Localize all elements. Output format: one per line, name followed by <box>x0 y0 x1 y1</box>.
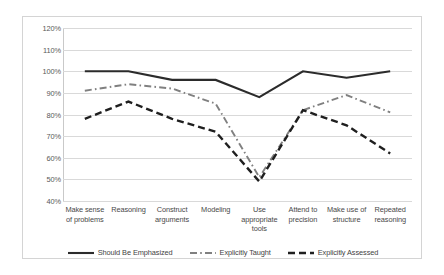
x-tick-label: Useappropriatetools <box>238 205 282 247</box>
gridline <box>63 201 412 202</box>
chart-container: 120%110%100%90%80%70%60%50%40% Make sens… <box>22 16 422 259</box>
x-tick-label: Repeatedreasoning <box>368 205 412 247</box>
legend-label: Explicitly Assessed <box>318 248 379 257</box>
y-tick-label: 70% <box>27 132 61 141</box>
y-tick-label: 90% <box>27 88 61 97</box>
x-tick-label: Constructarguments <box>150 205 194 247</box>
chart-legend: Should Be EmphasizedExplicitly TaughtExp… <box>23 248 423 257</box>
legend-label: Explicitly Taught <box>220 248 271 257</box>
legend-swatch-icon <box>190 249 216 257</box>
series-line-2 <box>85 102 390 182</box>
series-lines <box>63 28 412 201</box>
x-tick-label: Make senseof problems <box>63 205 107 247</box>
legend-swatch-icon <box>288 249 314 257</box>
y-tick-label: 60% <box>27 153 61 162</box>
y-tick-label: 40% <box>27 197 61 206</box>
legend-item-0[interactable]: Should Be Emphasized <box>68 248 173 257</box>
y-tick-label: 120% <box>27 24 61 33</box>
y-tick-label: 110% <box>27 45 61 54</box>
plot-wrapper: 120%110%100%90%80%70%60%50%40% Make sens… <box>23 17 423 260</box>
x-tick-label: Modeling <box>194 205 238 247</box>
x-axis: Make senseof problemsReasoningConstructa… <box>63 205 412 247</box>
legend-item-2[interactable]: Explicitly Assessed <box>288 248 379 257</box>
legend-label: Should Be Emphasized <box>98 248 173 257</box>
y-axis: 120%110%100%90%80%70%60%50%40% <box>23 17 61 260</box>
plot-area <box>63 28 412 201</box>
legend-swatch-icon <box>68 249 94 257</box>
x-tick-label: Attend toprecision <box>281 205 325 247</box>
series-line-1 <box>85 84 390 177</box>
y-tick-label: 50% <box>27 175 61 184</box>
legend-item-1[interactable]: Explicitly Taught <box>190 248 271 257</box>
y-tick-label: 100% <box>27 67 61 76</box>
y-tick-label: 80% <box>27 110 61 119</box>
x-tick-label: Make use ofstructure <box>325 205 369 247</box>
x-tick-label: Reasoning <box>107 205 151 247</box>
